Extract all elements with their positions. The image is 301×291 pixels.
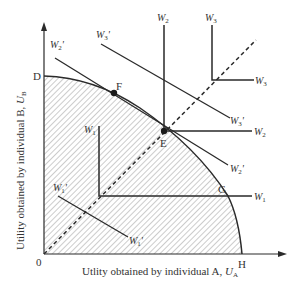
x-axis-arrow-icon (278, 251, 287, 257)
label-origin: 0 (36, 256, 42, 268)
y-axis-title: Utility obtained by individual B, UB (14, 91, 28, 250)
welfare-diagram: D F E G H 0 W1 W1 W2 W2 W3 W3 W1' W1' W2… (0, 0, 301, 291)
label-w2-top: W2 (157, 12, 169, 25)
label-w1-right: W1 (254, 191, 266, 204)
label-d: D (33, 70, 41, 82)
label-w3p-right: W3' (230, 115, 245, 128)
label-w3p-left: W3' (96, 29, 111, 42)
welfare-contour-w2 (164, 25, 252, 131)
point-e (161, 128, 167, 134)
label-h: H (238, 258, 246, 270)
label-e: E (160, 137, 167, 149)
label-w3-top: W3 (205, 12, 217, 25)
label-f: F (116, 80, 122, 92)
label-g: G (218, 183, 226, 195)
feasible-region (44, 76, 242, 254)
label-w2-right: W2 (254, 126, 266, 139)
welfare-contour-w3 (212, 25, 254, 80)
label-w2p-left: W2' (50, 39, 65, 52)
label-w2p-right: W2' (230, 163, 245, 176)
y-axis-arrow-icon (41, 22, 47, 31)
label-w3-right: W3 (255, 75, 267, 88)
x-axis-title: Utlity obtained by individual A, UA (82, 265, 238, 279)
